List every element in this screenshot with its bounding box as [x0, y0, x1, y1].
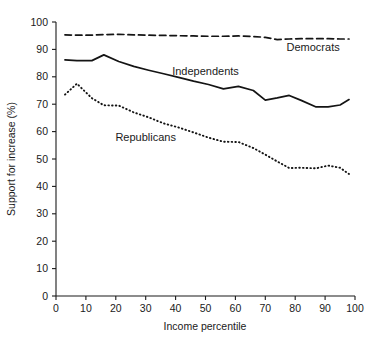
- y-tick-label: 0: [42, 290, 48, 302]
- x-tick-label: 20: [110, 302, 122, 314]
- y-tick-label: 80: [36, 70, 48, 82]
- y-axis-tick-labels: 0102030405060708090100: [30, 16, 48, 302]
- y-axis-title: Support for increase (%): [5, 102, 17, 216]
- x-tick-label: 90: [319, 302, 331, 314]
- x-tick-label: 50: [200, 302, 212, 314]
- y-tick-label: 70: [36, 98, 48, 110]
- y-tick-label: 20: [36, 235, 48, 247]
- x-tick-label: 30: [140, 302, 152, 314]
- x-axis-tick-marks: [56, 296, 355, 300]
- y-tick-label: 100: [30, 16, 48, 28]
- x-axis-title: Income percentile: [164, 320, 247, 332]
- x-tick-label: 10: [80, 302, 92, 314]
- y-tick-label: 40: [36, 180, 48, 192]
- y-tick-label: 90: [36, 43, 48, 55]
- figure-container: 0102030405060708090100 01020304050607080…: [0, 0, 369, 345]
- series-line-democrats: [65, 34, 349, 39]
- y-tick-label: 50: [36, 153, 48, 165]
- x-tick-label: 80: [289, 302, 301, 314]
- series-line-independents: [65, 55, 349, 107]
- series-label-republicans: Republicans: [115, 131, 176, 143]
- series-annotations: DemocratsIndependentsRepublicans: [115, 41, 340, 143]
- y-tick-label: 10: [36, 262, 48, 274]
- x-axis-tick-labels: 0102030405060708090100: [53, 302, 364, 314]
- series-label-democrats: Democrats: [287, 41, 341, 53]
- x-tick-label: 100: [346, 302, 364, 314]
- y-tick-label: 60: [36, 125, 48, 137]
- y-tick-label: 30: [36, 207, 48, 219]
- x-tick-label: 40: [170, 302, 182, 314]
- x-tick-label: 60: [230, 302, 242, 314]
- line-chart: 0102030405060708090100 01020304050607080…: [0, 0, 369, 345]
- x-tick-label: 70: [259, 302, 271, 314]
- series-label-independents: Independents: [172, 65, 239, 77]
- x-tick-label: 0: [53, 302, 59, 314]
- y-axis-tick-marks: [52, 22, 56, 296]
- series-line-republicans: [65, 84, 349, 174]
